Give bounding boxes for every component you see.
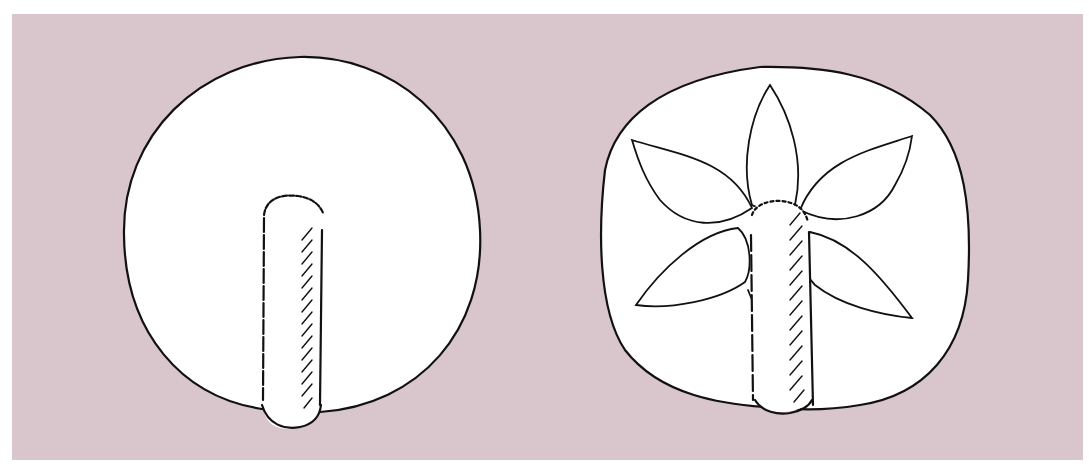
right-handle-body	[750, 202, 812, 412]
left-handle-left	[263, 218, 264, 400]
left-handle-body	[262, 196, 326, 429]
flower-seal	[601, 67, 969, 414]
plain-round-seal	[124, 57, 480, 429]
illustration	[0, 0, 1089, 470]
